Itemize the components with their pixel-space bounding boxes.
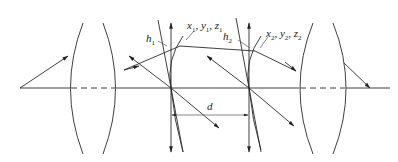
incoming-ray: [20, 56, 68, 88]
label-distance-d: d: [207, 101, 213, 112]
diagonal-rays: [129, 56, 294, 128]
label-h1: h1: [146, 33, 155, 47]
surface-2: [236, 18, 261, 152]
label-point-2: x2, y2, z2: [266, 28, 302, 42]
right-lens: [300, 23, 346, 154]
left-lens: [71, 23, 116, 154]
label-h2: h2: [223, 31, 232, 45]
label-point-1: x1, y1, z1: [187, 20, 223, 34]
surface-1: [158, 20, 183, 152]
outgoing-ray: [344, 63, 370, 88]
